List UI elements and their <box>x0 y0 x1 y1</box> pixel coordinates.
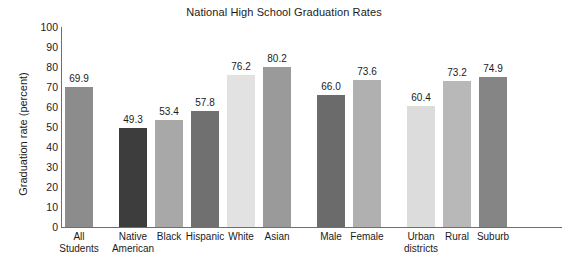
bar-value-label: 73.2 <box>437 68 477 78</box>
bar-value-label: 66.0 <box>311 82 351 92</box>
y-axis-tick-label: 100 <box>18 22 58 33</box>
bar-value-label: 76.2 <box>221 62 261 72</box>
y-axis-tick-label: 50 <box>18 122 58 133</box>
bar <box>65 87 93 227</box>
y-axis-tick-label: 80 <box>18 62 58 73</box>
x-axis-category-label: Suburb <box>466 231 520 243</box>
x-axis-category-label: Female <box>340 231 394 243</box>
bar <box>353 80 381 227</box>
bar <box>317 95 345 227</box>
y-axis-tick-label: 20 <box>18 182 58 193</box>
bar <box>155 120 183 227</box>
bar <box>479 77 507 227</box>
bar <box>119 128 147 227</box>
bar <box>263 67 291 227</box>
bar-value-label: 69.9 <box>59 74 99 84</box>
bar <box>191 111 219 227</box>
bar <box>443 81 471 227</box>
bar-value-label: 80.2 <box>257 54 297 64</box>
bar-value-label: 73.6 <box>347 67 387 77</box>
plot-area <box>62 27 562 227</box>
bar-value-label: 49.3 <box>113 115 153 125</box>
y-axis-tick-label: 60 <box>18 102 58 113</box>
bar <box>227 75 255 227</box>
y-axis-tick-label: 90 <box>18 42 58 53</box>
y-axis-tick-labels: 0102030405060708090100 <box>10 0 58 276</box>
bar <box>407 106 435 227</box>
x-axis-category-label: All Students <box>52 231 106 254</box>
bar-chart: National High School Graduation Rates Gr… <box>0 0 568 276</box>
x-axis-line <box>61 227 562 228</box>
y-axis-tick-label: 40 <box>18 142 58 153</box>
bar-value-label: 57.8 <box>185 98 225 108</box>
x-axis-category-label: Asian <box>250 231 304 243</box>
y-axis-tick-label: 30 <box>18 162 58 173</box>
y-axis-tick-label: 70 <box>18 82 58 93</box>
y-axis-tick-label: 10 <box>18 202 58 213</box>
bar-value-label: 53.4 <box>149 107 189 117</box>
bar-value-label: 74.9 <box>473 64 513 74</box>
bar-value-label: 60.4 <box>401 93 441 103</box>
chart-title: National High School Graduation Rates <box>0 6 568 18</box>
